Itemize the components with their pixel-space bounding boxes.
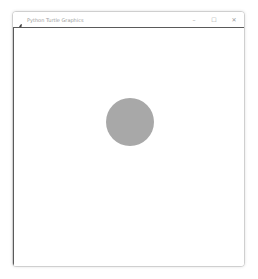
maximize-button[interactable]: ☐ xyxy=(204,12,224,27)
turtle-window: Python Turtle Graphics – ☐ ✕ xyxy=(12,11,245,267)
turtle-canvas[interactable] xyxy=(13,28,244,266)
window-controls: – ☐ ✕ xyxy=(184,12,244,27)
close-button[interactable]: ✕ xyxy=(224,12,244,27)
minimize-button[interactable]: – xyxy=(184,12,204,27)
feather-icon xyxy=(17,16,23,23)
title-bar[interactable]: Python Turtle Graphics – ☐ ✕ xyxy=(13,12,244,27)
window-title: Python Turtle Graphics xyxy=(27,17,84,23)
gray-circle xyxy=(106,98,154,146)
